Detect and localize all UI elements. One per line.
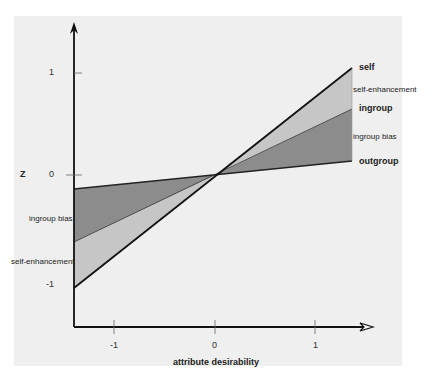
chart-plot [0, 0, 430, 375]
label-self-enhancement-right: self-enhancement [353, 86, 417, 94]
label-outgroup: outgroup [359, 157, 399, 166]
x-axis-label: attribute desirability [173, 358, 259, 367]
label-self-enhancement-left: self-enhancement [11, 258, 75, 266]
outgroup-line [74, 161, 352, 189]
y-tick-0: 0 [49, 170, 54, 179]
ingroup-line [74, 109, 352, 242]
x-tick-minus-1: -1 [110, 341, 118, 350]
label-self: self [359, 63, 375, 72]
x-tick-1: 1 [313, 341, 318, 350]
y-tick-minus-1: -1 [46, 280, 54, 289]
label-ingroup-bias-left: ingroup bias [29, 215, 73, 223]
self-line [74, 68, 352, 288]
y-tick-1: 1 [49, 68, 54, 77]
label-ingroup-bias-right: ingroup bias [353, 133, 397, 141]
x-tick-0: 0 [212, 341, 217, 350]
label-ingroup: ingroup [359, 104, 393, 113]
y-axis-label: Z [20, 170, 26, 179]
